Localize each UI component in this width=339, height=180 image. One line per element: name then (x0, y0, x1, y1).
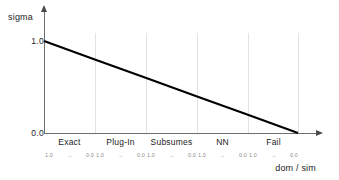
x-axis-title: dom / sim (0, 163, 316, 173)
band-subsumes: Subsumes (146, 136, 197, 148)
chart-container: sigma 1.0 0.0 Exact Plug-In Subsumes NN … (0, 0, 339, 180)
band-label-nn: NN (197, 136, 248, 148)
band-label-plug-in: Plug-In (95, 136, 146, 148)
subticks-nn: 1.0 → 0.0 (197, 150, 248, 160)
subticks-exact: 1.0 → 0.0 (44, 150, 95, 160)
subtick-to-exact: 0.0 (86, 150, 94, 160)
band-label-exact: Exact (44, 136, 95, 148)
subtick-from-nn: 1.0 (198, 150, 206, 160)
data-series-line (44, 41, 298, 133)
subtick-to-nn: 0.0 (239, 150, 247, 160)
subticks-fail: 1.0 → 0.0 (248, 150, 299, 160)
subtick-from-plug-in: 1.0 (96, 150, 104, 160)
subtick-from-fail: 1.0 (249, 150, 257, 160)
subticks-plug-in: 1.0 → 0.0 (95, 150, 146, 160)
subtick-arrow-plug-in: → (118, 150, 124, 160)
subticks-subsumes: 1.0 → 0.0 (146, 150, 197, 160)
subtick-to-fail: 0.0 (290, 150, 298, 160)
subtick-arrow-subsumes: → (169, 150, 175, 160)
subtick-from-subsumes: 1.0 (147, 150, 155, 160)
band-fail: Fail (248, 136, 299, 148)
subtick-from-exact: 1.0 (45, 150, 53, 160)
band-label-fail: Fail (248, 136, 299, 148)
subtick-arrow-fail: → (271, 150, 277, 160)
subtick-to-plug-in: 0.0 (137, 150, 145, 160)
subtick-arrow-nn: → (220, 150, 226, 160)
band-exact: Exact (44, 136, 95, 148)
subtick-to-subsumes: 0.0 (188, 150, 196, 160)
subtick-arrow-exact: → (67, 150, 73, 160)
band-label-subsumes: Subsumes (146, 136, 197, 148)
band-nn: NN (197, 136, 248, 148)
band-plug-in: Plug-In (95, 136, 146, 148)
